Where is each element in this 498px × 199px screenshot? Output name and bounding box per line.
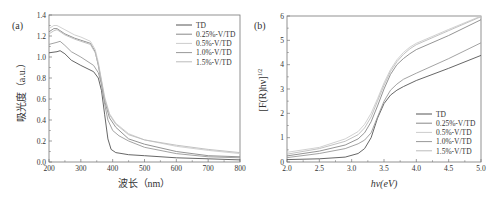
legend-label: 0.5%-V/TD (436, 128, 472, 137)
y-tick-label: 0 (280, 158, 284, 167)
y-tick-label: 1.4 (37, 11, 47, 20)
panel-a: 2003004005006007008000.00.20.40.60.81.01… (12, 11, 246, 190)
x-tick-label: 400 (107, 164, 119, 173)
x-tick-label: 800 (234, 164, 246, 173)
x-tick-label: 2.5 (315, 164, 325, 173)
legend-label: 1.0%-V/TD (196, 48, 232, 57)
x-axis-label-a: 波长（nm） (118, 177, 171, 189)
x-tick-label: 700 (203, 164, 215, 173)
figure: 2003004005006007008000.00.20.40.60.81.01… (0, 0, 498, 199)
y-tick-label: 0.8 (37, 74, 47, 83)
y-tick-label: 5 (280, 36, 284, 45)
y-tick-label: 3 (280, 85, 284, 94)
legend-label: 1.0%-V/TD (436, 137, 472, 146)
x-tick-label: 5.0 (476, 164, 486, 173)
legend-label: 0.25%-V/TD (196, 30, 236, 39)
y-tick-label: 0.2 (37, 137, 47, 146)
x-axis-label-b: hν(eV) (371, 178, 398, 190)
x-tick-label: 500 (139, 164, 151, 173)
x-tick-label: 4.0 (412, 164, 422, 173)
y-axis-label-a: 吸光度（a.u.） (15, 58, 27, 122)
y-tick-label: 1.0 (37, 53, 47, 62)
y-axis-label-b-main: [F(R)hν] (257, 76, 269, 111)
panel-label-b: (b) (254, 20, 266, 32)
legend-label: 1.5%-V/TD (196, 58, 232, 67)
y-tick-label: 4 (280, 60, 284, 69)
legend-a: TD0.25%-V/TD0.5%-V/TD1.0%-V/TD1.5%-V/TD (176, 21, 236, 67)
legend-label: 0.5%-V/TD (196, 39, 232, 48)
panel-label-a: (a) (12, 20, 23, 32)
legend-label: TD (196, 21, 207, 30)
y-tick-label: 0.6 (37, 95, 47, 104)
y-axis-label-b-sup: 1/2 (257, 69, 263, 77)
y-tick-label: 2 (280, 109, 284, 118)
x-tick-label: 300 (75, 164, 87, 173)
x-tick-label: 4.5 (444, 164, 454, 173)
y-axis-label-b: [F(R)hν]1/2 (257, 69, 269, 112)
legend-label: TD (436, 110, 447, 119)
x-tick-label: 3.5 (379, 164, 389, 173)
x-tick-label: 600 (171, 164, 183, 173)
panel-b: 2.02.53.03.54.04.55.00123456 TD0.25%-V/T… (254, 12, 486, 191)
y-tick-label: 0.0 (37, 158, 47, 167)
legend-b: TD0.25%-V/TD0.5%-V/TD1.0%-V/TD1.5%-V/TD (416, 110, 476, 156)
y-tick-label: 6 (280, 12, 284, 21)
x-tick-label: 3.0 (347, 164, 357, 173)
y-tick-label: 1.2 (37, 32, 47, 41)
y-tick-label: 1 (280, 133, 284, 142)
series-line-td (49, 51, 240, 160)
y-tick-label: 0.4 (37, 116, 47, 125)
legend-label: 0.25%-V/TD (436, 119, 476, 128)
legend-label: 1.5%-V/TD (436, 147, 472, 156)
